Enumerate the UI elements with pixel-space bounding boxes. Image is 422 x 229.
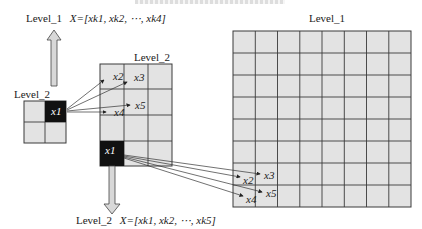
big-x5-label: x5	[266, 187, 276, 199]
level2-bottom-text: Level_2	[76, 214, 112, 226]
mid-x3-label: x3	[134, 71, 144, 83]
level1-formula: X=[xk1, xk2, ⋯, xk4]	[70, 12, 166, 24]
small-x1-label: x1	[51, 105, 61, 117]
mid-x5-label: x5	[135, 99, 145, 111]
mid-x4-label: x4	[114, 106, 124, 118]
level1-grid	[233, 31, 411, 207]
big-x2-label: x2	[243, 174, 253, 186]
level1-grid-title: Level_1	[309, 12, 345, 24]
big-x4-label: x4	[246, 193, 256, 205]
level2-grid-title: Level_2	[134, 51, 170, 63]
mid-x1-label: x1	[105, 144, 115, 156]
level2-bottom-formula: X=[xk1, xk2, ⋯, xk5]	[120, 214, 216, 226]
down-arrow-icon	[104, 166, 120, 214]
level1-left-label: Level_1 X=[xk1, xk2, ⋯, xk4]	[26, 12, 166, 24]
big-x3-label: x3	[264, 169, 274, 181]
diagram-canvas	[0, 0, 422, 229]
level1-text: Level_1	[26, 12, 62, 24]
level2-small-title: Level_2	[14, 88, 50, 100]
level2-bottom-label: Level_2 X=[xk1, xk2, ⋯, xk5]	[76, 214, 216, 226]
up-arrow-icon	[47, 30, 61, 86]
mid-x2-label: x2	[113, 70, 123, 82]
